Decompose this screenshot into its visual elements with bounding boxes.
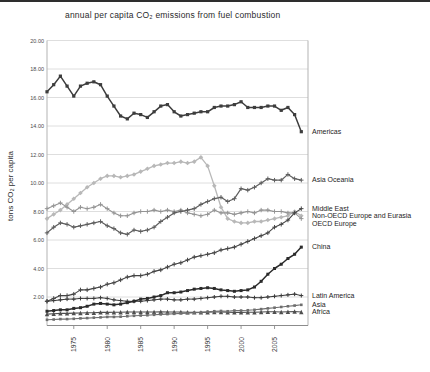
marker [153, 296, 156, 299]
marker [253, 309, 256, 312]
marker [113, 316, 116, 319]
marker [92, 80, 95, 83]
marker [272, 216, 277, 221]
marker [219, 104, 222, 107]
marker [239, 242, 243, 246]
marker [212, 251, 216, 255]
marker [226, 294, 230, 298]
marker [233, 103, 236, 106]
marker [46, 310, 49, 313]
y-tick-label: 20.00 [30, 38, 44, 44]
marker [125, 174, 130, 179]
marker [246, 188, 250, 192]
marker [138, 169, 143, 174]
y-tick-label: 18.00 [30, 66, 44, 72]
marker [72, 297, 76, 301]
series-line-middle-east [47, 209, 301, 302]
marker [153, 314, 156, 317]
series-label-asia-oceania: Asia Oceania [312, 176, 354, 183]
marker [92, 286, 96, 290]
marker [293, 253, 296, 256]
marker [105, 282, 109, 286]
marker [286, 257, 289, 260]
marker [239, 221, 244, 226]
marker [232, 295, 236, 299]
series-label-africa: Africa [312, 308, 330, 315]
marker [280, 263, 283, 266]
marker [300, 304, 303, 307]
marker [259, 234, 263, 238]
series-label-americas: Americas [312, 128, 342, 135]
marker [65, 222, 69, 226]
marker [112, 303, 115, 306]
marker [186, 289, 189, 292]
marker [92, 205, 96, 209]
marker [66, 308, 69, 311]
marker [179, 298, 183, 302]
y-tick-label: 6.00 [33, 237, 44, 243]
marker [145, 228, 149, 232]
marker [139, 113, 142, 116]
marker [179, 261, 183, 265]
marker [99, 296, 103, 300]
marker [159, 294, 162, 297]
marker [185, 161, 190, 166]
marker [119, 303, 122, 306]
marker [206, 310, 209, 313]
marker [246, 309, 249, 312]
marker [52, 318, 55, 321]
marker [79, 85, 82, 88]
marker [220, 288, 223, 291]
marker [159, 104, 162, 107]
marker [193, 288, 196, 291]
marker [206, 286, 209, 289]
marker [139, 314, 142, 317]
marker [152, 269, 156, 273]
series-label-latin-america: Latin America [312, 292, 355, 299]
marker [266, 295, 270, 299]
marker [212, 295, 216, 299]
y-tick-label: 8.00 [33, 209, 44, 215]
marker [233, 309, 236, 312]
marker [45, 206, 49, 210]
marker [219, 294, 223, 298]
marker [273, 104, 276, 107]
marker [199, 214, 203, 218]
marker [213, 106, 216, 109]
marker [45, 90, 48, 93]
marker [78, 224, 82, 228]
marker [165, 161, 170, 166]
marker [126, 301, 129, 304]
x-tick-label: 1990 [171, 337, 178, 352]
marker [260, 280, 263, 283]
marker [152, 164, 157, 169]
marker [267, 307, 270, 310]
marker [166, 103, 169, 106]
line-chart: 2.004.006.008.0010.0012.0014.0016.0018.0… [0, 0, 430, 372]
marker [273, 267, 276, 270]
marker [246, 295, 250, 299]
series-label-oecd-europe: OECD Europe [312, 220, 357, 228]
marker [106, 303, 109, 306]
marker [180, 312, 183, 315]
marker [293, 304, 296, 307]
marker [232, 245, 236, 249]
marker [233, 290, 236, 293]
marker [186, 297, 190, 301]
marker [105, 174, 110, 179]
marker [118, 278, 122, 282]
marker [286, 293, 290, 297]
x-tick-label: 1975 [70, 337, 77, 352]
marker [206, 110, 209, 113]
marker [205, 252, 209, 256]
marker [139, 298, 142, 301]
marker [59, 318, 62, 321]
marker [300, 246, 303, 249]
marker [51, 204, 55, 208]
marker [253, 106, 256, 109]
marker [199, 110, 202, 113]
x-tick-label: 1995 [204, 337, 211, 352]
marker [259, 219, 264, 224]
y-tick-label: 14.00 [30, 123, 44, 129]
marker [200, 311, 203, 314]
